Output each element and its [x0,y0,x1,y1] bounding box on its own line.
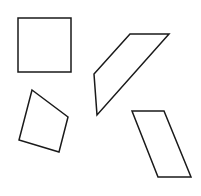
parallelogram-shape [132,111,191,177]
kite-quadrilateral-shape [19,90,68,152]
slanted-quadrilateral-shape [94,34,169,115]
shapes-svg [0,0,201,196]
diagram-canvas [0,0,201,196]
square-shape [18,18,71,72]
